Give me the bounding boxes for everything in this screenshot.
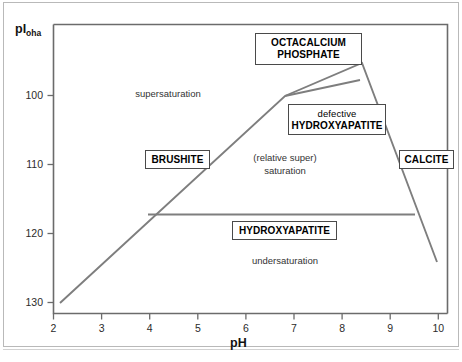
- y-tick-label-130: 130: [18, 296, 43, 308]
- chart-plot-area: [0, 0, 462, 362]
- label-defective-line1: defective: [318, 108, 357, 120]
- y-axis-title-main: pI: [15, 22, 26, 36]
- label-box-brushite: BRUSHITE: [145, 150, 210, 169]
- y-axis-title: pIoha: [15, 22, 41, 36]
- x-tick-label-7: 7: [284, 322, 304, 334]
- label-ocp-line2: PHOSPHATE: [277, 49, 339, 61]
- figure-container: 100 110 120 130 2 3 4 5 6 7 8 9 10 pIoha…: [0, 0, 462, 362]
- label-box-hydroxyapatite: HYDROXYAPATITE: [232, 221, 337, 240]
- annotation-relative-supersaturation-line1: (relative super): [253, 152, 316, 163]
- x-tick-label-8: 8: [332, 322, 352, 334]
- label-hydroxyapatite: HYDROXYAPATITE: [239, 225, 330, 237]
- label-calcite: CALCITE: [404, 154, 448, 166]
- y-tick-label-110: 110: [18, 158, 43, 170]
- x-axis-ticks: [54, 314, 439, 320]
- x-tick-label-3: 3: [92, 322, 112, 334]
- curve-ocp-branch: [285, 80, 360, 96]
- annotation-undersaturation: undersaturation: [225, 255, 345, 268]
- x-tick-label-4: 4: [140, 322, 160, 334]
- x-tick-label-2: 2: [44, 322, 64, 334]
- y-axis-title-sub: oha: [26, 28, 41, 38]
- x-tick-label-9: 9: [380, 322, 400, 334]
- x-tick-label-5: 5: [188, 322, 208, 334]
- label-ocp-line1: OCTACALCIUM: [271, 37, 346, 49]
- y-axis-ticks: [48, 96, 54, 303]
- annotation-relative-supersaturation: (relative super) saturation: [225, 152, 345, 177]
- x-axis-title: pH: [230, 336, 247, 350]
- x-tick-label-10: 10: [428, 322, 448, 334]
- label-brushite: BRUSHITE: [152, 154, 204, 166]
- label-box-calcite: CALCITE: [399, 150, 454, 169]
- y-tick-label-100: 100: [18, 89, 43, 101]
- x-tick-label-6: 6: [236, 322, 256, 334]
- label-box-defective-hydroxyapatite: defective HYDROXYAPATITE: [288, 104, 386, 135]
- y-tick-label-120: 120: [18, 227, 43, 239]
- label-defective-line2: HYDROXYAPATITE: [291, 120, 382, 132]
- annotation-relative-supersaturation-line2: saturation: [264, 165, 306, 176]
- label-box-octacalcium-phosphate: OCTACALCIUM PHOSPHATE: [255, 33, 362, 65]
- annotation-supersaturation: supersaturation: [118, 88, 218, 101]
